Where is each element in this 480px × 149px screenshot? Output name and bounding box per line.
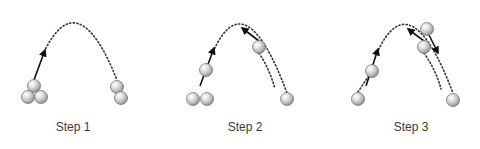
juggling-diagram: Step 1Step 2Step 3 <box>0 0 480 149</box>
right-hand-ball <box>447 94 460 107</box>
left-flying-ball <box>366 65 379 78</box>
step-1-panel: Step 1 <box>22 23 128 134</box>
right-flying-ball <box>253 41 266 54</box>
step-3-label: Step 3 <box>394 120 429 134</box>
right-hand-bottom-ball <box>115 92 128 105</box>
left-hand-ball <box>352 93 365 106</box>
left-hand-ball-2 <box>201 93 214 106</box>
left-hand-ball-1 <box>187 93 200 106</box>
step-1-label: Step 1 <box>56 120 91 134</box>
middle-right-ball <box>418 41 431 54</box>
top-right-ball <box>421 23 434 36</box>
step-3-panel: Step 3 <box>352 23 460 135</box>
left-flying-ball <box>200 64 213 77</box>
step-2-panel: Step 2 <box>187 24 294 134</box>
main-arc-trajectory <box>44 23 117 80</box>
left-hand-bottom-right-ball <box>35 91 48 104</box>
left-hand-bottom-left-ball <box>22 91 35 104</box>
throw-arrow-icon <box>34 50 45 80</box>
step-2-label: Step 2 <box>228 120 263 134</box>
steps-layer: Step 1Step 2Step 3 <box>22 23 460 135</box>
right-hand-ball <box>281 93 294 106</box>
